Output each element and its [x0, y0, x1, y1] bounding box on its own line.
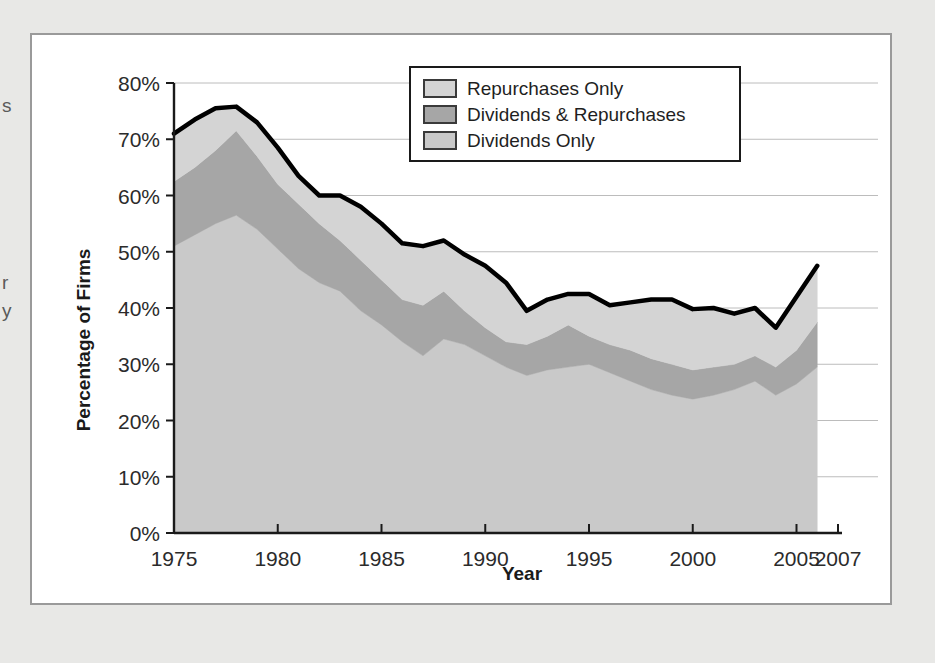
y-tick-label: 40%	[118, 297, 160, 320]
y-tick-label: 70%	[118, 128, 160, 151]
chart-legend: Repurchases OnlyDividends & RepurchasesD…	[410, 67, 740, 161]
page-edge-fragment-r: r	[2, 272, 8, 294]
figure-panel: 0%10%20%30%40%50%60%70%80% 1975198019851…	[30, 33, 892, 605]
y-tick-label: 20%	[118, 410, 160, 433]
x-tick-label: 1995	[566, 547, 613, 570]
legend-swatch-0	[424, 80, 456, 97]
page-edge-fragment-y: y	[2, 300, 12, 322]
legend-swatch-2	[424, 132, 456, 149]
legend-swatch-1	[424, 106, 456, 123]
y-tick-label: 80%	[118, 72, 160, 95]
legend-label-0: Repurchases Only	[467, 78, 624, 99]
y-tick-label: 10%	[118, 466, 160, 489]
x-tick-label: 2005	[773, 547, 820, 570]
area-series-group	[174, 107, 817, 533]
chart-stage: 0%10%20%30%40%50%60%70%80% 1975198019851…	[32, 35, 890, 603]
x-tick-label: 2007	[815, 547, 862, 570]
page-edge-fragment-s: s	[2, 95, 12, 117]
x-tick-label: 1980	[254, 547, 301, 570]
y-axis-title: Percentage of Firms	[73, 249, 94, 432]
y-axis-ticks: 0%10%20%30%40%50%60%70%80%	[118, 72, 174, 545]
x-tick-label: 1975	[151, 547, 198, 570]
stacked-area-chart: 0%10%20%30%40%50%60%70%80% 1975198019851…	[32, 35, 890, 603]
x-tick-label: 1985	[358, 547, 405, 570]
legend-label-2: Dividends Only	[467, 130, 595, 151]
x-axis-title: Year	[502, 563, 543, 584]
y-tick-label: 0%	[130, 522, 160, 545]
y-tick-label: 60%	[118, 185, 160, 208]
y-tick-label: 50%	[118, 241, 160, 264]
y-tick-label: 30%	[118, 353, 160, 376]
legend-label-1: Dividends & Repurchases	[467, 104, 686, 125]
x-tick-label: 2000	[669, 547, 716, 570]
